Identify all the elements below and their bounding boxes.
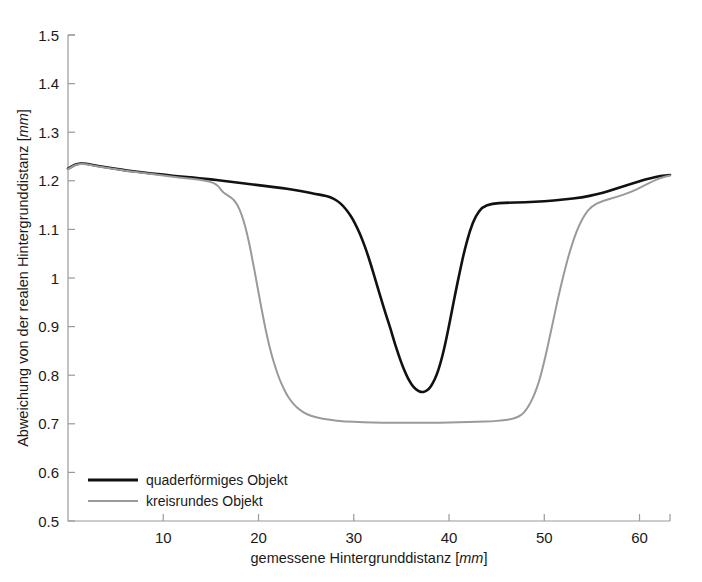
- x-tick-label: 40: [441, 529, 458, 546]
- y-tick-label: 0.5: [38, 513, 59, 530]
- plot-background: [0, 0, 702, 582]
- y-axis-title: Abweichung von der realen Hintergrunddis…: [15, 109, 31, 447]
- svg-text:gemessene Hintergrunddistanz [: gemessene Hintergrunddistanz [mm]: [251, 550, 488, 566]
- y-tick-label: 0.7: [38, 415, 59, 432]
- figure-container: 0.50.60.70.80.911.11.21.31.41.5 10203040…: [0, 0, 702, 582]
- line-chart: 0.50.60.70.80.911.11.21.31.41.5 10203040…: [0, 0, 702, 582]
- x-tick-label: 20: [250, 529, 267, 546]
- y-tick-label: 0.9: [38, 318, 59, 335]
- x-axis-title: gemessene Hintergrunddistanz [mm]: [251, 550, 488, 566]
- legend-label-0: quaderförmiges Objekt: [146, 472, 288, 488]
- x-tick-label: 30: [345, 529, 362, 546]
- y-tick-label: 0.8: [38, 367, 59, 384]
- y-tick-label: 1.2: [38, 172, 59, 189]
- x-tick-label: 60: [631, 529, 648, 546]
- svg-text:Abweichung von der realen Hint: Abweichung von der realen Hintergrunddis…: [15, 109, 31, 447]
- legend-label-1: kreisrundes Objekt: [146, 493, 263, 509]
- y-tick-label: 0.6: [38, 464, 59, 481]
- y-tick-label: 1.4: [38, 75, 59, 92]
- y-tick-label: 1.1: [38, 221, 59, 238]
- y-tick-label: 1: [51, 270, 59, 287]
- y-tick-label: 1.3: [38, 124, 59, 141]
- y-tick-label: 1.5: [38, 27, 59, 44]
- x-tick-label: 10: [155, 529, 172, 546]
- x-tick-label: 50: [536, 529, 553, 546]
